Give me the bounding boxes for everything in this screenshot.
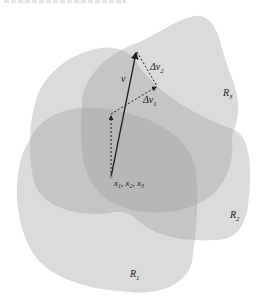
- cutoff-caption-mark: [122, 0, 126, 3]
- region-diagram: v Δv2 Δv1 x1, x2, x3 R3 R2 R1: [0, 0, 261, 302]
- diagram-canvas: v Δv2 Δv1 x1, x2, x3 R3 R2 R1: [0, 0, 261, 302]
- origin-label: x1, x2, x3: [113, 178, 144, 189]
- v-label: v: [121, 73, 126, 84]
- origin-point: [109, 175, 112, 178]
- cutoff-caption-line: [4, 0, 126, 3]
- region-r3: [81, 16, 238, 213]
